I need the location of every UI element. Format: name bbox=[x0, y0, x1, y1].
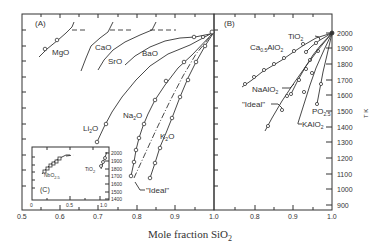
right-axis-ticks bbox=[326, 33, 332, 205]
y-tick: 900 bbox=[337, 202, 349, 209]
inset-x-tick-2: 1.0 bbox=[100, 202, 107, 208]
y-tick: 1700 bbox=[337, 77, 353, 84]
label-ca05alo2: Ca0.5AlO2 bbox=[250, 43, 284, 53]
label-ideal-b: "Ideal" bbox=[242, 100, 265, 109]
x-tick: 0.5 bbox=[17, 213, 27, 220]
y-tick: 1400 bbox=[337, 124, 353, 131]
y-tick: 1900 bbox=[337, 45, 353, 52]
panel-b-x-tick-labels: 0.8 0.9 1.0 bbox=[250, 213, 337, 220]
y-tick: 1300 bbox=[337, 139, 353, 146]
inset-y-tick: 1700 bbox=[111, 173, 122, 179]
label-kalo2: KAlO2 bbox=[302, 120, 324, 130]
panel-a-point bbox=[201, 35, 204, 38]
label-mgo: MgO bbox=[52, 48, 69, 57]
label-naalo2: NaAlO2 bbox=[252, 85, 279, 95]
inset-c: NbO2.5 TiO2 (C) 0 0.5 1.0 2000 1900 1800… bbox=[30, 147, 122, 208]
x-tick: 0.8 bbox=[250, 213, 260, 220]
label-ideal-a: "Ideal" bbox=[146, 186, 169, 195]
inset-x-tick-1: 0.5 bbox=[66, 202, 73, 208]
y-tick: 1200 bbox=[337, 155, 353, 162]
panel-a-bottom-ticks bbox=[41, 205, 195, 210]
y-axis-title: T K bbox=[363, 109, 369, 118]
x-tick: 0.9 bbox=[288, 213, 298, 220]
panel-a-label: (A) bbox=[35, 19, 46, 28]
x-tick: 0.7 bbox=[93, 213, 103, 220]
x-tick: 0.6 bbox=[55, 213, 65, 220]
inset-y-tick: 1600 bbox=[111, 181, 122, 187]
panel-b-label: (B) bbox=[224, 19, 235, 28]
panel-a-top-ticks bbox=[41, 14, 195, 18]
y-tick: 1600 bbox=[337, 92, 353, 99]
figure: (A) (B) MgO CaO SrO BaO Li2O Na2O bbox=[0, 0, 387, 247]
label-inset-tio2: TiO2 bbox=[85, 166, 96, 174]
x-tick: 0.8 bbox=[132, 213, 142, 220]
x-tick: 1.0 bbox=[327, 213, 337, 220]
label-na2o: Na2O bbox=[123, 111, 142, 121]
inset-y-tick: 2000 bbox=[111, 150, 122, 156]
label-tio2: TiO2 bbox=[288, 32, 304, 42]
inset-y-tick: 1500 bbox=[111, 189, 122, 195]
x-tick: 0.9 bbox=[170, 213, 180, 220]
label-nbo25: NbO2.5 bbox=[44, 172, 61, 180]
y-tick: 2000 bbox=[337, 30, 353, 37]
inset-y-tick: 1400 bbox=[111, 196, 122, 202]
x-axis-title: Mole fraction SiO2 bbox=[148, 228, 232, 243]
label-k2o: K2O bbox=[160, 132, 174, 142]
series-cao: CaO bbox=[81, 22, 132, 71]
label-li2o: Li2O bbox=[83, 124, 98, 134]
series-k2o: K2O bbox=[148, 32, 214, 180]
label-bao: BaO bbox=[142, 49, 158, 58]
y-tick: 1000 bbox=[337, 186, 353, 193]
series-mgo: MgO bbox=[39, 22, 88, 57]
panel-b-endpoint bbox=[330, 31, 334, 35]
inset-y-tick: 1800 bbox=[111, 166, 122, 172]
inset-y-tick: 1900 bbox=[111, 158, 122, 164]
panel-a-left-ticks bbox=[22, 30, 26, 186]
panel-c-label: (C) bbox=[40, 186, 50, 194]
panel-a-endpoint bbox=[210, 30, 214, 34]
label-sro: SrO bbox=[108, 57, 122, 66]
y-tick: 1800 bbox=[337, 61, 353, 68]
label-po25: PO2.5 bbox=[312, 107, 331, 117]
y-tick: 1500 bbox=[337, 108, 353, 115]
y-tick: 1100 bbox=[337, 171, 352, 178]
label-cao: CaO bbox=[95, 43, 111, 52]
panel-a-x-tick-labels: 0.5 0.6 0.7 0.8 0.9 1.0 bbox=[17, 213, 219, 220]
inset-x-tick-0: 0 bbox=[30, 202, 33, 208]
panel-b-ticks bbox=[214, 14, 313, 210]
right-y-tick-labels: 2000 1900 1800 1700 1600 1500 1400 1300 … bbox=[337, 30, 353, 209]
x-tick: 1.0 bbox=[209, 213, 219, 220]
